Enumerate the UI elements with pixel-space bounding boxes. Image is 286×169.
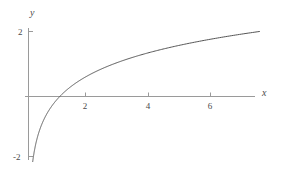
x-axis-label: x (262, 88, 266, 98)
x-tick-label-4: 4 (146, 102, 151, 111)
x-tick-label-6: 6 (208, 102, 213, 111)
plot-figure: 2 4 6 2 -2 y x (0, 0, 286, 169)
x-tick-label-2: 2 (83, 102, 88, 111)
y-axis-label: y (30, 8, 34, 18)
y-tick-label-neg2: -2 (13, 153, 21, 162)
y-tick-label-2: 2 (18, 28, 23, 37)
plot-canvas (0, 0, 286, 169)
